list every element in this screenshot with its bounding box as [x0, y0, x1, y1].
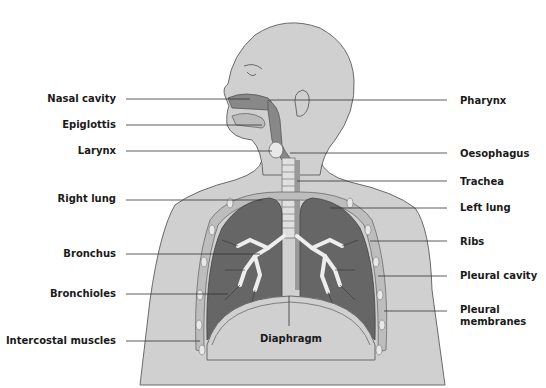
- label-ribs: Ribs: [460, 236, 484, 248]
- oesophagus-shape: [295, 160, 300, 290]
- label-trachea: Trachea: [460, 176, 504, 188]
- label-diaphragm: Diaphragm: [260, 333, 322, 345]
- label-epiglottis: Epiglottis: [62, 119, 116, 131]
- label-intercostal-muscles: Intercostal muscles: [6, 335, 116, 347]
- label-bronchioles: Bronchioles: [50, 288, 116, 300]
- label-left-lung: Left lung: [460, 202, 511, 214]
- label-pleural-cavity: Pleural cavity: [460, 270, 537, 282]
- label-oesophagus: Oesophagus: [460, 148, 529, 160]
- larynx-shape: [269, 142, 283, 158]
- label-pharynx: Pharynx: [460, 95, 506, 107]
- label-nasal-cavity: Nasal cavity: [47, 93, 116, 105]
- label-bronchus: Bronchus: [63, 248, 116, 260]
- label-pleural-membranes: Pleural membranes: [460, 304, 526, 328]
- label-right-lung: Right lung: [58, 193, 117, 205]
- label-larynx: Larynx: [78, 145, 116, 157]
